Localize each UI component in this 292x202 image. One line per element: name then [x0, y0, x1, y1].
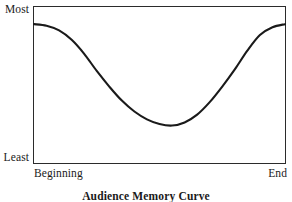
audience-memory-curve-figure: Most Least Beginning End Audience Memory…	[0, 0, 292, 202]
y-axis-label-most: Most	[0, 3, 29, 15]
memory-curve-path	[34, 24, 285, 125]
y-axis-label-least: Least	[0, 151, 29, 163]
x-axis-label-beginning: Beginning	[34, 167, 83, 180]
memory-curve-plot	[34, 7, 285, 163]
plot-frame	[33, 6, 286, 164]
x-axis-label-end: End	[268, 167, 287, 180]
figure-caption: Audience Memory Curve	[0, 190, 292, 202]
